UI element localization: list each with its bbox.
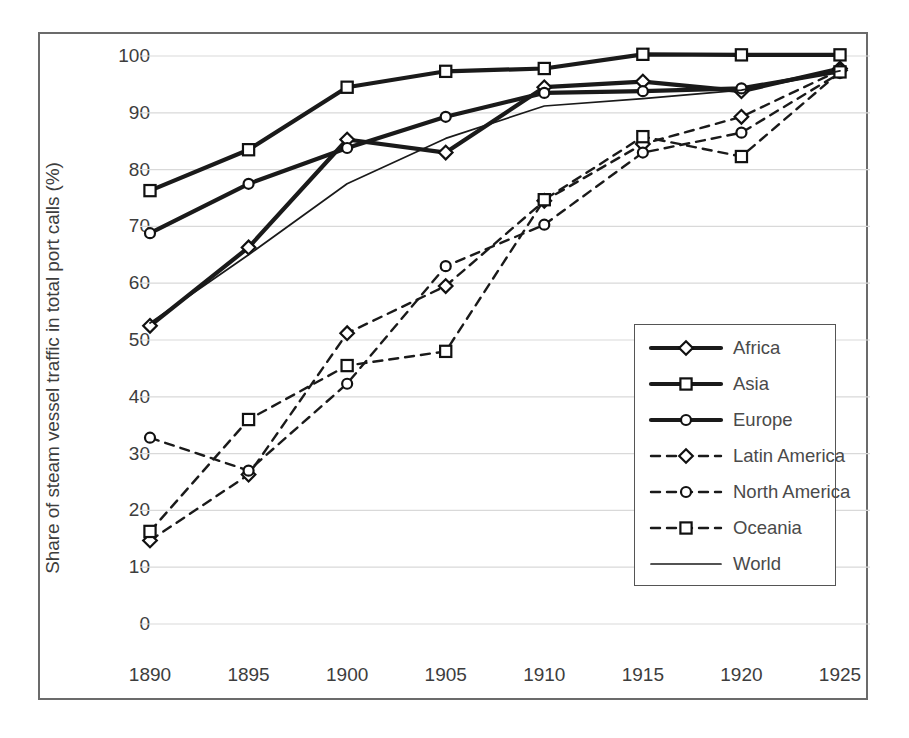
- data-point-square: [144, 185, 155, 196]
- legend-item-asia[interactable]: Asia: [635, 366, 835, 402]
- square-marker: [243, 414, 254, 425]
- legend-swatch: [647, 446, 725, 466]
- circle-marker: [539, 88, 549, 98]
- data-point-diamond: [340, 326, 354, 340]
- series-line: [150, 69, 840, 326]
- circle-marker: [736, 83, 746, 93]
- legend-label: Asia: [733, 373, 769, 395]
- square-marker: [680, 378, 691, 389]
- legend-swatch: [647, 482, 725, 502]
- square-marker: [440, 66, 451, 77]
- data-point-circle: [342, 143, 352, 153]
- chart-frame: Share of steam vessel traffic in total p…: [38, 32, 868, 700]
- legend-item-africa[interactable]: Africa: [635, 330, 835, 366]
- square-marker: [539, 194, 550, 205]
- data-point-square: [243, 144, 254, 155]
- data-point-square: [637, 49, 648, 60]
- data-point-circle: [244, 466, 254, 476]
- square-marker: [736, 151, 747, 162]
- legend-label: Europe: [733, 409, 793, 431]
- square-marker: [342, 82, 353, 93]
- data-point-diamond: [679, 449, 693, 463]
- data-point-square: [680, 522, 691, 533]
- data-point-square: [637, 131, 648, 142]
- legend-label: Oceania: [733, 517, 802, 539]
- legend-label: Africa: [733, 337, 780, 359]
- legend-item-latin-america[interactable]: Latin America: [635, 438, 835, 474]
- data-point-square: [680, 378, 691, 389]
- circle-marker: [244, 466, 254, 476]
- data-point-circle: [736, 128, 746, 138]
- circle-marker: [145, 228, 155, 238]
- circle-marker: [342, 379, 352, 389]
- circle-marker: [441, 112, 451, 122]
- square-marker: [736, 49, 747, 60]
- data-point-square: [342, 360, 353, 371]
- square-marker: [637, 131, 648, 142]
- circle-marker: [145, 433, 155, 443]
- series-africa: [143, 62, 847, 333]
- data-point-circle: [441, 112, 451, 122]
- data-point-circle: [441, 261, 451, 271]
- legend-item-europe[interactable]: Europe: [635, 402, 835, 438]
- legend-label: World: [733, 553, 781, 575]
- square-marker: [680, 522, 691, 533]
- data-point-circle: [145, 433, 155, 443]
- data-point-circle: [145, 228, 155, 238]
- circle-marker: [736, 128, 746, 138]
- square-marker: [144, 526, 155, 537]
- square-marker: [342, 360, 353, 371]
- circle-marker: [539, 220, 549, 230]
- data-point-square: [736, 151, 747, 162]
- series-world: [150, 71, 840, 323]
- circle-marker: [681, 487, 691, 497]
- data-point-circle: [539, 88, 549, 98]
- data-point-square: [834, 49, 845, 60]
- legend-swatch: [647, 554, 725, 574]
- legend-label: Latin America: [733, 445, 845, 467]
- square-marker: [637, 49, 648, 60]
- square-marker: [243, 144, 254, 155]
- data-point-diamond: [735, 110, 749, 124]
- legend-swatch: [647, 338, 725, 358]
- square-marker: [144, 185, 155, 196]
- series-line: [150, 71, 840, 323]
- legend-label: North America: [733, 481, 850, 503]
- data-point-circle: [681, 415, 691, 425]
- circle-marker: [244, 179, 254, 189]
- data-point-square: [440, 346, 451, 357]
- diamond-marker: [679, 449, 693, 463]
- diamond-marker: [340, 326, 354, 340]
- legend-item-oceania[interactable]: Oceania: [635, 510, 835, 546]
- data-point-square: [144, 526, 155, 537]
- square-marker: [539, 63, 550, 74]
- legend-item-world[interactable]: World: [635, 546, 835, 582]
- circle-marker: [638, 86, 648, 96]
- data-point-circle: [736, 83, 746, 93]
- diamond-marker: [735, 110, 749, 124]
- data-point-square: [736, 49, 747, 60]
- data-point-circle: [342, 379, 352, 389]
- data-point-square: [539, 194, 550, 205]
- legend-item-north-america[interactable]: North America: [635, 474, 835, 510]
- data-point-diamond: [679, 341, 693, 355]
- data-point-square: [539, 63, 550, 74]
- circle-marker: [441, 261, 451, 271]
- data-point-circle: [638, 148, 648, 158]
- square-marker: [440, 346, 451, 357]
- data-point-circle: [681, 487, 691, 497]
- legend-swatch: [647, 518, 725, 538]
- legend-swatch: [647, 410, 725, 430]
- circle-marker: [638, 148, 648, 158]
- circle-marker: [342, 143, 352, 153]
- data-point-square: [342, 82, 353, 93]
- data-point-square: [243, 414, 254, 425]
- chart-legend[interactable]: AfricaAsiaEuropeLatin AmericaNorth Ameri…: [634, 324, 836, 586]
- circle-marker: [681, 415, 691, 425]
- legend-swatch: [647, 374, 725, 394]
- chart-screenshot: Share of steam vessel traffic in total p…: [0, 0, 909, 738]
- diamond-marker: [679, 341, 693, 355]
- data-point-circle: [539, 220, 549, 230]
- data-point-square: [440, 66, 451, 77]
- data-point-circle: [638, 86, 648, 96]
